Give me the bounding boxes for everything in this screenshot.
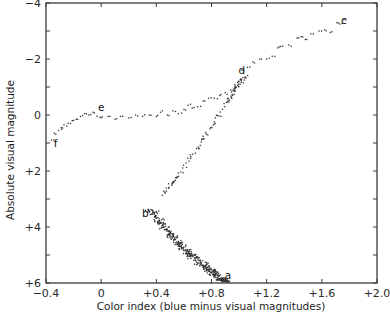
plot-border [46, 3, 377, 283]
data-point [217, 277, 218, 278]
data-point [160, 112, 161, 113]
data-point [261, 59, 262, 60]
data-point [227, 281, 228, 282]
data-point [188, 253, 189, 254]
data-point [67, 123, 68, 124]
data-point [220, 94, 221, 95]
data-point [66, 125, 67, 126]
data-point [165, 229, 166, 230]
data-point [178, 172, 179, 173]
data-point [70, 123, 71, 124]
data-point [205, 262, 206, 263]
data-point [298, 37, 299, 38]
data-point [210, 272, 211, 273]
data-point [150, 209, 151, 210]
data-point [199, 265, 200, 266]
data-point [182, 172, 183, 173]
data-point [166, 188, 167, 189]
data-point [185, 250, 186, 251]
data-point [199, 260, 200, 261]
data-point [181, 248, 182, 249]
data-point [76, 119, 77, 120]
data-point [175, 111, 176, 112]
data-point [192, 154, 193, 155]
data-point [190, 254, 191, 255]
data-point [225, 92, 226, 93]
data-point [178, 241, 179, 242]
data-point [191, 253, 192, 254]
data-point [63, 124, 64, 125]
data-point [161, 227, 162, 228]
data-point [278, 46, 279, 47]
data-point [149, 211, 150, 212]
data-point [185, 109, 186, 110]
data-point [162, 195, 163, 196]
data-point [192, 107, 193, 108]
data-point [190, 249, 191, 250]
data-point [176, 241, 177, 242]
data-point [196, 148, 197, 149]
data-point [179, 242, 180, 243]
data-point [232, 95, 233, 96]
data-point [200, 261, 201, 262]
data-point [211, 271, 212, 272]
data-point [200, 145, 201, 146]
data-point [149, 210, 150, 211]
data-point [177, 177, 178, 178]
data-point [189, 251, 190, 252]
data-point [171, 238, 172, 239]
data-point [208, 98, 209, 99]
data-point [182, 244, 183, 245]
data-point [212, 273, 213, 274]
point-annotations: abcdef [54, 14, 347, 281]
data-point [288, 44, 289, 45]
data-point [207, 272, 208, 273]
data-point [171, 185, 172, 186]
data-point [195, 260, 196, 261]
data-point [185, 246, 186, 247]
y-tick-label: −4 [25, 0, 41, 10]
data-point [230, 95, 231, 96]
data-point [164, 192, 165, 193]
data-point [122, 116, 123, 117]
data-point [72, 120, 73, 121]
data-point [163, 227, 164, 228]
data-point [161, 225, 162, 226]
data-point [249, 66, 250, 67]
data-point [101, 117, 102, 118]
data-point [190, 154, 191, 155]
data-point [244, 77, 245, 78]
data-point [128, 117, 129, 118]
data-point [218, 272, 219, 273]
data-point [330, 32, 331, 33]
data-point [214, 98, 215, 99]
data-point [156, 211, 157, 212]
data-point [172, 236, 173, 237]
data-point [192, 255, 193, 256]
data-point [194, 254, 195, 255]
data-point [178, 176, 179, 177]
data-point [221, 281, 222, 282]
data-point [154, 216, 155, 217]
data-point [331, 31, 332, 32]
data-point [187, 258, 188, 259]
data-point [182, 247, 183, 248]
data-point [168, 226, 169, 227]
data-point [189, 249, 190, 250]
data-point [102, 116, 103, 117]
data-point [247, 67, 248, 68]
data-point [190, 156, 191, 157]
data-point [182, 242, 183, 243]
data-point [227, 101, 228, 102]
data-point [239, 84, 240, 85]
data-point [144, 114, 145, 115]
data-point [214, 123, 215, 124]
y-tick-label: 0 [34, 109, 41, 122]
data-point [217, 115, 218, 116]
data-point [179, 249, 180, 250]
data-point [206, 133, 207, 134]
data-point [179, 246, 180, 247]
data-point [215, 275, 216, 276]
data-point [120, 116, 121, 117]
data-point [84, 113, 85, 114]
